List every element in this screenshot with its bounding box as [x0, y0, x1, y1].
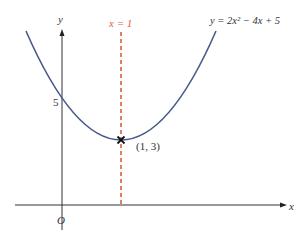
parabola-diagram: y x O x = 1 y = 2x² − 4x + 5 5 (1, 3) — [0, 0, 297, 233]
vertex-label: (1, 3) — [136, 140, 160, 153]
y-intercept-label: 5 — [53, 96, 59, 108]
equation-label: y = 2x² − 4x + 5 — [209, 15, 280, 26]
origin-label: O — [57, 214, 65, 226]
x-axis-arrow-icon — [280, 203, 287, 208]
x-axis-label: x — [288, 200, 294, 212]
y-axis-arrow-icon — [60, 29, 65, 36]
symmetry-label: x = 1 — [108, 17, 132, 29]
y-axis-label: y — [57, 13, 63, 25]
